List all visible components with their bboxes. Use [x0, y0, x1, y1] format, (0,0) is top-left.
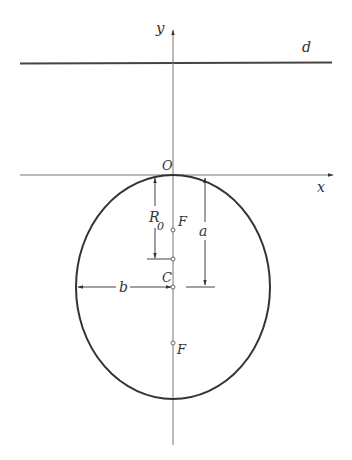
origin-label: O [162, 158, 173, 173]
center-label: C [162, 270, 172, 285]
focus-top-label: F [177, 214, 188, 229]
x-axis-label: x [317, 179, 325, 195]
focus-bottom-point [171, 341, 175, 345]
b-label: b [119, 279, 128, 295]
focus-top-point [171, 228, 175, 232]
ellipse-diagram: d y x O R 0 a b F C F [0, 0, 352, 460]
directrix-label: d [302, 39, 311, 55]
directrix-line [20, 63, 332, 64]
focus-bottom-label: F [176, 342, 187, 357]
center-point [171, 285, 175, 289]
y-axis-label: y [155, 19, 165, 37]
a-label: a [199, 223, 207, 239]
r0-end-point [171, 257, 175, 261]
r0-subscript: 0 [157, 220, 164, 233]
